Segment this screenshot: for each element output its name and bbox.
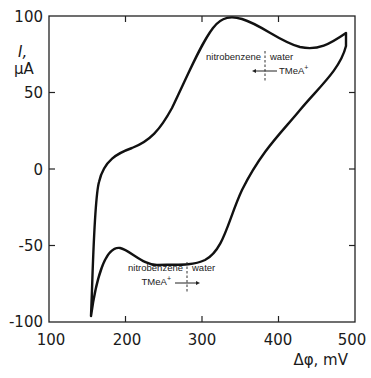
- y-axis-ticks-right: [349, 93, 355, 246]
- y-axis-ticks: [49, 93, 55, 246]
- y-axis-title-unit: μA: [14, 60, 35, 78]
- y-tick-minus-100: -100: [9, 313, 43, 331]
- annotation-lower: nitrobenzene water TMeA+: [128, 262, 215, 292]
- annotation-lower-ion: TMeA+: [142, 275, 171, 287]
- arrow-head-left-icon: [252, 69, 256, 73]
- x-tick-500: 500: [338, 331, 367, 349]
- annotation-upper-ion: TMeA+: [279, 64, 308, 76]
- x-tick-labels: 100 200 300 400 500: [37, 331, 367, 349]
- plot-frame: [49, 16, 355, 322]
- x-axis-title: Δφ, mV: [293, 351, 348, 369]
- x-axis-ticks: [126, 316, 279, 322]
- y-tick-minus-50: -50: [19, 237, 44, 255]
- x-tick-400: 400: [264, 331, 293, 349]
- x-axis-ticks-top: [126, 16, 279, 22]
- x-tick-100: 100: [37, 331, 66, 349]
- y-tick-100: 100: [14, 8, 43, 26]
- y-tick-50: 50: [24, 84, 43, 102]
- x-tick-200: 200: [113, 331, 142, 349]
- annotation-upper-nitrobenzene: nitrobenzene: [206, 51, 261, 62]
- annotation-lower-water: water: [191, 262, 215, 273]
- x-tick-300: 300: [188, 331, 217, 349]
- cyclic-voltammogram-chart: 100 50 0 -50 -100 100 200 300 400 500 I,…: [0, 0, 371, 378]
- annotation-upper: nitrobenzene water TMeA+: [206, 51, 308, 81]
- annotation-upper-water: water: [269, 51, 293, 62]
- y-axis-title-symbol: I,: [18, 43, 27, 61]
- y-tick-0: 0: [33, 161, 43, 179]
- annotation-lower-nitrobenzene: nitrobenzene: [128, 262, 183, 273]
- arrow-head-right-icon: [196, 281, 200, 285]
